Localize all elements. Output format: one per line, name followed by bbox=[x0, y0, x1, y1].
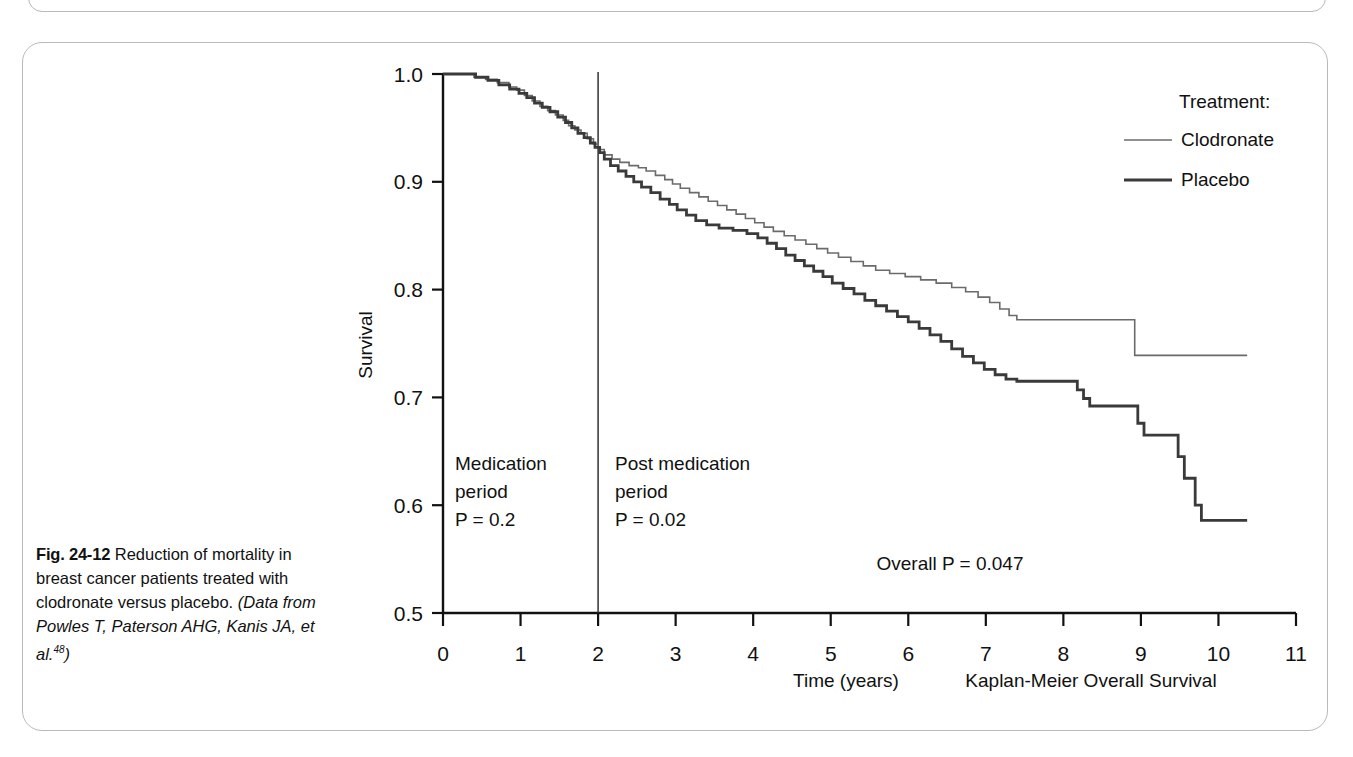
figure-caption-number: Fig. 24-12 bbox=[36, 545, 110, 563]
figure-caption-reference: 48 bbox=[53, 644, 64, 655]
figure-caption: Fig. 24-12 Reduction of mortality in bre… bbox=[36, 542, 336, 666]
page-top-card-fragment bbox=[28, 0, 1326, 12]
figure-caption-source-end: ) bbox=[65, 645, 71, 663]
